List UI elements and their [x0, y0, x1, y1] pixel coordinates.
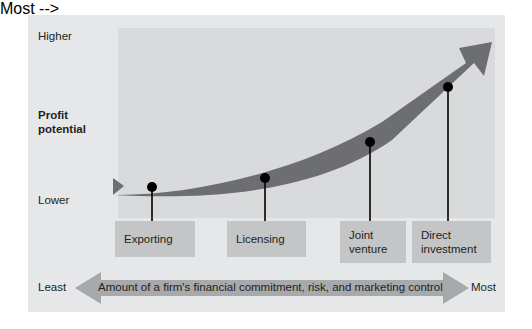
stage-label-direct-investment: Direct investment [412, 221, 491, 263]
stage-label-exporting: Exporting [115, 221, 195, 257]
stage-label-exporting-text: Exporting [124, 232, 173, 246]
scale-caption: Amount of a firm's financial commitment,… [98, 281, 428, 293]
joint-venture-line2: venture [349, 243, 387, 255]
direct-investment-line2: investment [421, 243, 477, 255]
y-axis-title-line2: potential [38, 123, 86, 135]
y-axis-bottom-label: Lower [38, 194, 69, 207]
profit-potential-figure: Higher Profit potential Lower Exporting … [0, 0, 532, 329]
stage-label-joint-venture-text: Joint venture [349, 228, 387, 256]
plot-area [118, 28, 495, 218]
y-axis-top-label: Higher [38, 30, 72, 43]
direct-investment-line1: Direct [421, 229, 451, 241]
stage-label-licensing-text: Licensing [236, 232, 285, 246]
joint-venture-line1: Joint [349, 229, 373, 241]
y-axis-title: Profit potential [38, 109, 86, 136]
y-axis-title-line1: Profit [38, 109, 68, 121]
stage-label-licensing: Licensing [227, 221, 306, 257]
stage-label-joint-venture: Joint venture [340, 221, 406, 263]
stage-label-direct-investment-text: Direct investment [421, 228, 477, 256]
scale-right-label: Most [471, 281, 496, 293]
scale-left-label: Least [38, 281, 66, 293]
